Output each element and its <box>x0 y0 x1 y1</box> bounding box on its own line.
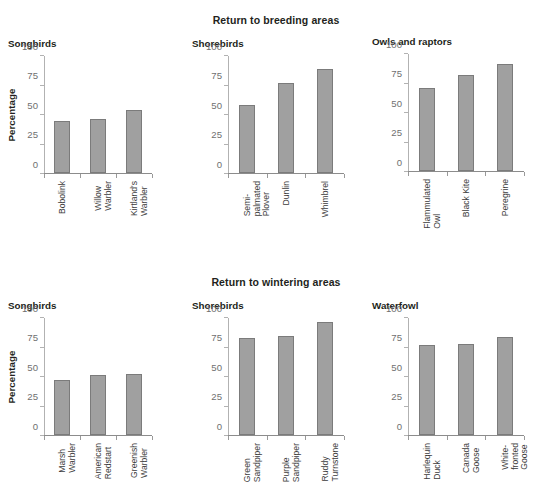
bar <box>239 105 255 173</box>
x-tick <box>305 174 306 178</box>
y-tick-label: 75 <box>211 332 222 343</box>
x-tick-label: Marsh Warbler <box>58 443 77 473</box>
y-tick <box>40 114 44 115</box>
y-tick <box>224 55 228 56</box>
y-tick-label: 25 <box>211 129 222 140</box>
x-tick <box>524 436 525 440</box>
y-tick-label: 0 <box>217 420 222 431</box>
y-tick-label: 50 <box>391 97 402 108</box>
bar <box>278 83 294 173</box>
x-tick-label: Bobolink <box>58 181 68 214</box>
x-tick-label: Ruddy Turnstone <box>321 443 340 481</box>
y-tick-label: 25 <box>27 129 38 140</box>
bar <box>317 69 333 173</box>
x-tick <box>524 172 525 176</box>
x-tick <box>44 436 45 440</box>
bar <box>126 110 142 173</box>
plot-area: 0255075100BobolinkWillow WarblerKirtland… <box>44 56 152 174</box>
x-tick-label: Canada Goose <box>462 443 481 473</box>
bar <box>90 375 106 435</box>
y-tick-label: 75 <box>27 70 38 81</box>
plot-area: 0255075100Semi- palmated PloverDunlinWhi… <box>228 56 344 174</box>
y-tick-label: 25 <box>391 391 402 402</box>
x-tick <box>80 436 81 440</box>
y-tick-label: 100 <box>22 302 38 313</box>
x-tick <box>228 436 229 440</box>
x-tick <box>116 436 117 440</box>
x-tick <box>408 172 409 176</box>
bar <box>419 88 435 171</box>
y-tick-label: 100 <box>206 40 222 51</box>
y-tick-label: 0 <box>397 156 402 167</box>
x-tick <box>447 172 448 176</box>
x-tick <box>116 174 117 178</box>
y-tick <box>404 317 408 318</box>
y-tick <box>40 317 44 318</box>
y-tick-label: 75 <box>27 332 38 343</box>
x-tick <box>485 436 486 440</box>
x-axis-spine <box>408 435 524 436</box>
y-tick-label: 0 <box>33 420 38 431</box>
x-tick-label: Willow Warbler <box>94 181 113 211</box>
bar <box>317 322 333 435</box>
x-tick <box>44 174 45 178</box>
plot-area: 0255075100Green SandpiperPurple Sandpipe… <box>228 318 344 436</box>
y-axis-spine <box>408 318 409 436</box>
y-tick <box>224 406 228 407</box>
y-axis-label: Percentage <box>6 318 18 436</box>
bar <box>419 345 435 435</box>
bar <box>458 344 474 435</box>
y-tick <box>404 112 408 113</box>
bar <box>239 338 255 435</box>
x-tick-label: Black Kite <box>462 179 472 217</box>
bar <box>54 121 70 173</box>
x-tick-label: Peregrine <box>501 179 511 216</box>
y-tick-label: 50 <box>27 361 38 372</box>
y-tick-label: 100 <box>22 40 38 51</box>
y-tick <box>404 406 408 407</box>
y-tick <box>224 317 228 318</box>
y-axis-label: Percentage <box>6 56 18 174</box>
y-tick-label: 0 <box>217 158 222 169</box>
y-tick <box>404 53 408 54</box>
x-tick-label: Flammulated Owl <box>423 179 442 229</box>
x-tick-label: Greenish Warbler <box>130 443 149 478</box>
y-tick-label: 50 <box>211 99 222 110</box>
y-tick-label: 75 <box>391 68 402 79</box>
x-tick <box>228 174 229 178</box>
y-tick-label: 75 <box>211 70 222 81</box>
y-tick-label: 25 <box>391 127 402 138</box>
y-tick-label: 0 <box>33 158 38 169</box>
y-tick <box>224 85 228 86</box>
plot-area: 0255075100Flammulated OwlBlack KitePereg… <box>408 54 524 172</box>
bar <box>458 75 474 171</box>
y-axis-spine <box>228 56 229 174</box>
x-tick <box>152 174 153 178</box>
x-tick <box>447 436 448 440</box>
y-tick-label: 50 <box>211 361 222 372</box>
bar <box>126 374 142 435</box>
y-tick-label: 75 <box>391 332 402 343</box>
y-axis-spine <box>228 318 229 436</box>
y-tick-label: 25 <box>211 391 222 402</box>
x-tick-label: White- fronted Goose <box>501 443 530 470</box>
y-tick <box>224 347 228 348</box>
y-tick <box>404 376 408 377</box>
y-tick-label: 50 <box>27 99 38 110</box>
y-tick-label: 100 <box>206 302 222 313</box>
x-tick <box>344 436 345 440</box>
y-tick <box>404 83 408 84</box>
y-tick <box>40 376 44 377</box>
y-axis-spine <box>44 318 45 436</box>
x-axis-spine <box>408 171 524 172</box>
x-tick <box>152 436 153 440</box>
x-tick <box>344 174 345 178</box>
plot-area: 0255075100Marsh WarblerAmerican Redstart… <box>44 318 152 436</box>
y-tick <box>40 347 44 348</box>
x-tick-label: American Redstart <box>94 443 113 479</box>
bar <box>54 380 70 435</box>
y-tick <box>404 347 408 348</box>
x-axis-spine <box>44 173 152 174</box>
x-tick <box>305 436 306 440</box>
y-tick-label: 100 <box>386 38 402 49</box>
